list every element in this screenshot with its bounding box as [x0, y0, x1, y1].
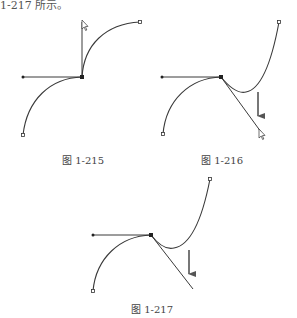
- cursor-icon: [82, 20, 88, 31]
- bezier-figures: [0, 0, 297, 318]
- bezier-curve: [93, 235, 151, 291]
- figure-caption-1-216: 图 1-216: [201, 152, 243, 167]
- bezier-curve: [163, 77, 221, 134]
- end-point: [22, 134, 25, 137]
- figure-caption-1-215: 图 1-215: [62, 152, 104, 167]
- bezier-curve: [23, 77, 82, 135]
- handle-point: [92, 234, 95, 237]
- end-point: [278, 21, 281, 24]
- handle-point: [161, 76, 164, 79]
- anchor-point: [149, 233, 153, 237]
- bezier-curve: [221, 22, 279, 92]
- end-point: [209, 178, 212, 181]
- bezier-curve: [82, 22, 140, 77]
- figure-1-217: [92, 178, 212, 293]
- bezier-curve: [151, 179, 210, 248]
- end-point: [162, 133, 165, 136]
- end-point: [92, 290, 95, 293]
- direction-handle-right: [151, 235, 193, 289]
- figure-caption-1-217: 图 1-217: [131, 301, 173, 316]
- anchor-point: [219, 75, 223, 79]
- direction-handle-right: [221, 77, 261, 132]
- cursor-icon: [259, 129, 265, 140]
- figure-1-215: [22, 20, 142, 137]
- anchor-point: [80, 75, 84, 79]
- end-point: [139, 21, 142, 24]
- handle-point: [22, 76, 25, 79]
- figure-1-216: [161, 21, 281, 140]
